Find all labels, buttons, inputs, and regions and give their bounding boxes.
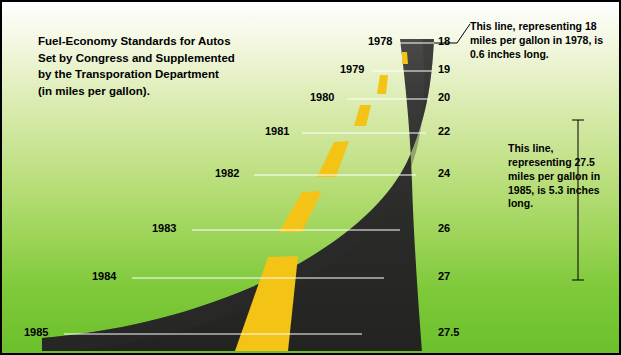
chart-border — [0, 0, 621, 355]
chart-figure: Fuel-Economy Standards for Autos Set by … — [0, 0, 621, 355]
